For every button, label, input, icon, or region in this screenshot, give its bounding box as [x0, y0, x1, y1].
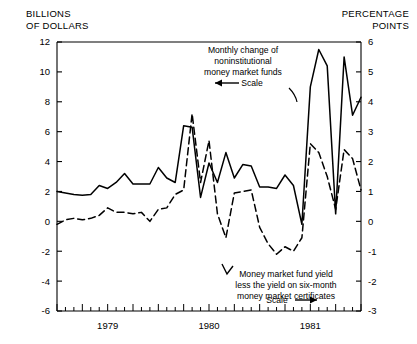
series1-annotation-line2: noninstitutional	[214, 56, 271, 66]
chart-root: BILLIONSOF DOLLARS PERCENTAGEPOINTS -6-4…	[0, 0, 417, 344]
series1-scale-arrow-head	[215, 80, 222, 87]
series1-annotation-line1: Monthly change of	[208, 45, 279, 55]
series1-leader-line	[289, 88, 297, 102]
series2-annotation-line1: Money market fund yield	[239, 269, 333, 279]
series1-scale-label: Scale	[241, 78, 263, 88]
series2-leader-line	[222, 264, 233, 274]
series2-annotation-line2: less the yield on six-month	[235, 280, 336, 290]
series1-annotation-line3: money market funds	[204, 67, 282, 77]
series2-scale-label: Scale	[266, 295, 288, 305]
chart-annotations: Monthly change ofnoninstitutionalmoney m…	[0, 0, 417, 344]
